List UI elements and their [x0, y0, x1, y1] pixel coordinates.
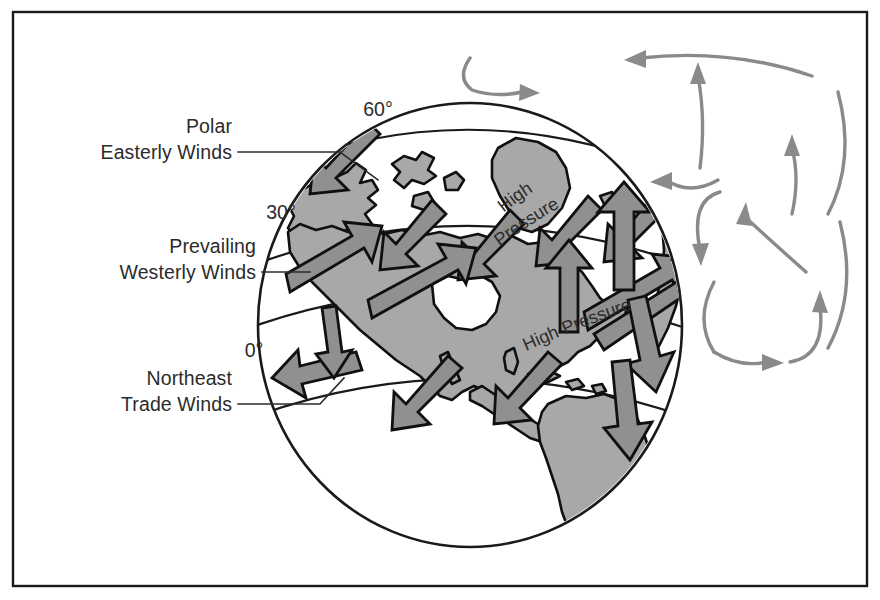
cell-arrowhead-hook-top [519, 84, 540, 101]
label-northeast-trade-line2: Trade Winds [121, 393, 232, 415]
diagram-canvas: High Pressure High Pressure [0, 0, 880, 600]
wind-pattern-figure: High Pressure High Pressure [0, 0, 880, 600]
label-prevailing-westerly-line1: Prevailing [169, 235, 256, 257]
cell-arrowhead-midlevel-left [650, 172, 672, 190]
cell-arrow-rising-right [698, 76, 703, 168]
cell-arrow-descend-outer [828, 92, 845, 214]
label-latitude-60: 60° [363, 98, 393, 120]
cell-arrow-loop-descend [698, 192, 721, 250]
cell-arrowhead-rising-mid [784, 134, 800, 156]
label-polar-easterly-line1: Polar [186, 115, 232, 137]
label-latitude-0: 0° [245, 339, 264, 361]
cell-arrowhead-rising-right [690, 62, 706, 84]
label-prevailing-westerly-line2: Westerly Winds [120, 261, 257, 283]
cell-arrowhead-top-return [624, 50, 646, 68]
landmass-florida [504, 348, 518, 374]
label-northeast-trade-line1: Northeast [147, 367, 233, 389]
cell-arrow-loop-right-rise [790, 306, 821, 362]
cell-arrow-rising-mid [792, 148, 796, 214]
cell-arrowhead-loop-diagonal [736, 202, 752, 226]
cell-arrow-top-return [640, 55, 812, 76]
cell-arrowhead-loop-bottom [762, 354, 784, 371]
cell-arrow-loop-bottom [714, 352, 766, 364]
cell-arrow-outer-right-descend [828, 222, 847, 348]
label-latitude-30: 30° [266, 201, 296, 223]
cell-arrow-hook-top [463, 58, 522, 95]
globe-group: High Pressure High Pressure [243, 103, 714, 548]
cell-arrow-loop-left-lower [704, 282, 714, 352]
cell-arrow-loop-diagonal [744, 216, 806, 272]
label-polar-easterly-line2: Easterly Winds [101, 141, 233, 163]
cell-arrow-midlevel-left [666, 180, 718, 188]
landmass-caribbean-c [592, 384, 606, 394]
cell-arrowhead-loop-right-rise [812, 290, 828, 313]
cell-arrowhead-loop-descend [692, 243, 709, 266]
